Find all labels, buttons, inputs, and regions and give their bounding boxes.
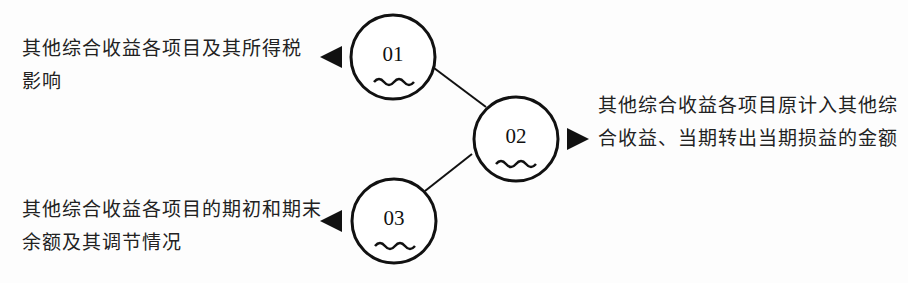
arrow-left-icon xyxy=(320,46,342,68)
connector-01-02 xyxy=(434,68,486,107)
node-number: 01 xyxy=(383,42,404,66)
node-03-description: 其他综合收益各项目的期初和期末余额及其调节情况 xyxy=(22,193,322,259)
arrow-right-icon xyxy=(567,128,589,150)
node-03: 03 xyxy=(320,179,436,263)
arrow-left-icon xyxy=(320,210,342,232)
node-number: 02 xyxy=(506,124,527,148)
node-01-description: 其他综合收益各项目及其所得税影响 xyxy=(22,32,312,98)
node-number: 03 xyxy=(384,206,405,230)
node-01: 01 xyxy=(320,15,435,99)
node-02-description: 其他综合收益各项目原计入其他综合收益、当期转出当期损益的金额 xyxy=(598,89,898,155)
connector-02-03 xyxy=(425,154,472,191)
node-02: 02 xyxy=(474,97,589,181)
